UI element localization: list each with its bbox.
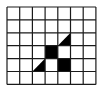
shaded-cell	[45, 46, 58, 59]
grid-lines	[7, 7, 96, 84]
shaded-cells	[32, 33, 70, 72]
shaded-cell	[32, 59, 45, 72]
grid-diagram	[0, 0, 100, 89]
shaded-cell	[58, 33, 71, 46]
shaded-cell	[58, 59, 71, 72]
